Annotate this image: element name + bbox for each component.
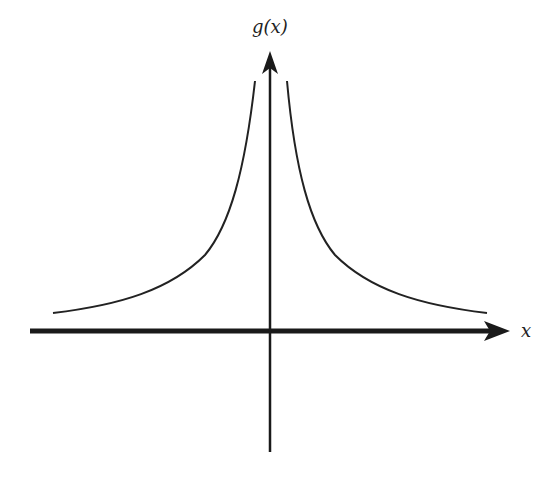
graph: g(x) x: [0, 0, 556, 504]
curve-right-branch: [287, 81, 487, 313]
curve-left-branch: [53, 81, 255, 313]
y-axis-label: g(x): [252, 16, 288, 37]
x-axis-label: x: [521, 320, 531, 341]
